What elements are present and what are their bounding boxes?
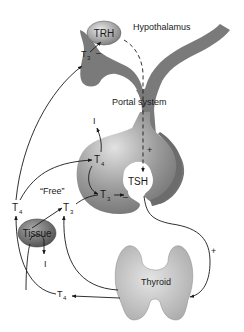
svg-text:4: 4 (19, 209, 23, 215)
plus-thyroid-sign: + (211, 246, 216, 256)
pituitary-gland (77, 112, 184, 214)
hypothalamus-label: Hypothalamus (133, 22, 191, 32)
free-label: “Free” (40, 186, 65, 196)
trh-label: TRH (94, 28, 115, 39)
thyroid-gland: Thyroid (115, 246, 193, 320)
t4-bottom-label: T 4 (57, 289, 67, 301)
svg-text:3: 3 (70, 209, 74, 215)
thyroid-label: Thyroid (141, 277, 171, 287)
tissue-label: Tissue (22, 228, 52, 239)
svg-text:T: T (63, 202, 69, 213)
t4-to-hypothalamus-arrow (16, 66, 82, 200)
tissue-node: Tissue (18, 219, 56, 247)
tsh-label: TSH (128, 176, 148, 187)
svg-text:T: T (12, 202, 18, 213)
portal-system-label: Portal system (112, 97, 167, 107)
t3-free-label: T 3 (63, 202, 74, 215)
thyroid-to-free-t3-arrow (64, 216, 118, 290)
t4-into-tissue-arrow (26, 244, 30, 290)
iodide-pituitary-label: I (93, 116, 96, 126)
t4-left-label: T 4 (12, 202, 23, 215)
iodide-tissue-label: I (44, 259, 47, 269)
trh-node: TRH (87, 21, 121, 45)
svg-text:T: T (100, 189, 106, 200)
thyroid-to-t4-arrow (72, 296, 120, 298)
minus-pituitary-sign: – (123, 192, 128, 202)
svg-text:T: T (94, 154, 100, 165)
thyroid-axis-diagram: TRH Tissue Thyroid Hypothalamus Portal s… (0, 0, 244, 332)
pituitary-anterior (77, 112, 184, 214)
svg-text:4: 4 (63, 295, 67, 301)
plus-portal-sign: + (147, 145, 152, 155)
minus-hypothalamus-sign: – (96, 48, 101, 58)
